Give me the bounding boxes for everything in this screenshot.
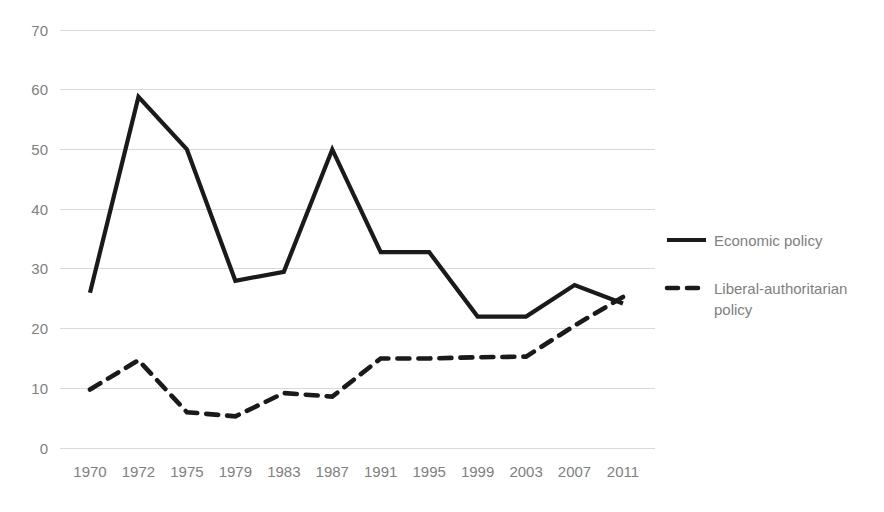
x-axis-tick-label: 1975 [170,463,203,480]
chart-plot-svg: 010203040506070 197019721975197919831987… [0,0,884,512]
x-axis-tick-label: 1987 [316,463,349,480]
y-axis-tick-label: 50 [31,141,48,158]
x-axis-tick-label: 1972 [122,463,155,480]
x-axis-tick-label: 2003 [509,463,542,480]
x-axis-tick-label: 2011 [607,463,639,480]
legend-label-2: policy [714,301,753,318]
x-axis-tick-label: 1970 [73,463,106,480]
y-axis-tick-label: 40 [31,201,48,218]
y-axis-tick-label: 0 [40,440,48,457]
y-axis-tick-label: 60 [31,81,48,98]
y-axis-tick-label: 10 [31,380,48,397]
x-axis-tick-label: 1979 [219,463,252,480]
y-axis-tick-label: 20 [31,320,48,337]
x-axis-tick-label: 1999 [461,463,494,480]
x-axis-tick-label: 2007 [558,463,591,480]
x-axis-tick-label: 1983 [267,463,300,480]
x-axis-tick-label: 1995 [412,463,445,480]
legend-label-1: Economic policy [714,232,823,249]
y-axis-tick-label: 30 [31,260,48,277]
chart-background [0,0,884,512]
x-axis-tick-label: 1991 [364,463,397,480]
line-chart-figure: 010203040506070 197019721975197919831987… [0,0,884,512]
y-axis-tick-label: 70 [31,22,48,39]
legend-label-2: Liberal-authoritarian [714,280,847,297]
